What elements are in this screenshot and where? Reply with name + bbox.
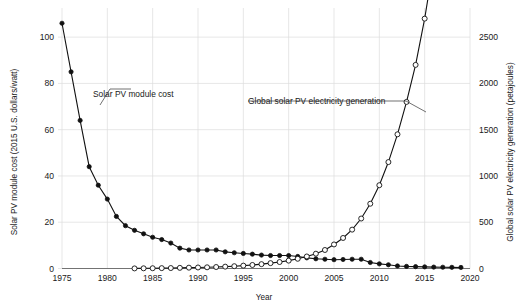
data-point bbox=[314, 257, 318, 261]
data-point bbox=[359, 257, 363, 261]
data-point bbox=[287, 253, 291, 257]
data-point bbox=[241, 251, 245, 255]
left-y-axis-title: Solar PV module cost (2015 U.S. dollars/… bbox=[10, 68, 19, 235]
chart-container: 1975198019851990199520002005201020152020… bbox=[0, 0, 528, 308]
data-point bbox=[259, 253, 263, 257]
vertical-gridlines bbox=[62, 8, 470, 269]
data-point bbox=[368, 260, 372, 264]
left-y-tick-label: 80 bbox=[44, 78, 54, 88]
x-tick-label: 1975 bbox=[52, 273, 71, 283]
data-point bbox=[277, 260, 282, 265]
data-point bbox=[177, 265, 182, 270]
data-point bbox=[395, 264, 399, 268]
data-point bbox=[142, 232, 146, 236]
data-point bbox=[422, 16, 427, 21]
data-point bbox=[60, 21, 64, 25]
horizontal-gridlines bbox=[58, 37, 470, 268]
data-point bbox=[150, 266, 155, 271]
data-point bbox=[332, 258, 336, 262]
data-point bbox=[441, 265, 445, 269]
data-point bbox=[323, 257, 327, 261]
data-point bbox=[450, 265, 454, 269]
right-y-axis-title: Global solar PV electricity generation (… bbox=[506, 62, 515, 242]
data-point bbox=[459, 265, 463, 269]
data-point bbox=[341, 235, 346, 240]
data-point bbox=[187, 248, 191, 252]
data-point bbox=[232, 264, 237, 269]
data-point bbox=[268, 261, 273, 266]
data-point bbox=[386, 263, 390, 267]
left-y-tick-label: 100 bbox=[40, 32, 55, 42]
data-point bbox=[205, 248, 209, 252]
data-point bbox=[232, 251, 236, 255]
x-axis-title: Year bbox=[256, 293, 273, 302]
generation-annotation-label: Global solar PV electricity generation bbox=[248, 96, 386, 106]
generation-series-markers bbox=[132, 0, 463, 271]
data-point bbox=[160, 237, 164, 241]
data-point bbox=[377, 262, 381, 266]
data-point bbox=[295, 256, 300, 261]
data-point bbox=[395, 132, 400, 137]
x-tick-label: 2020 bbox=[460, 273, 479, 283]
x-tick-label: 1985 bbox=[143, 273, 162, 283]
dual-axis-line-chart: 1975198019851990199520002005201020152020… bbox=[0, 0, 528, 308]
x-tick-label: 2015 bbox=[415, 273, 434, 283]
data-point bbox=[304, 254, 309, 259]
left-y-tick-label: 20 bbox=[44, 217, 54, 227]
data-point bbox=[413, 62, 418, 67]
right-y-tick-label: 2500 bbox=[479, 32, 498, 42]
data-point bbox=[313, 251, 318, 256]
right-y-tick-label: 500 bbox=[479, 217, 494, 227]
data-point bbox=[368, 201, 373, 206]
data-point bbox=[123, 224, 127, 228]
left-y-tick-label: 60 bbox=[44, 125, 54, 135]
data-point bbox=[132, 266, 137, 271]
data-point bbox=[132, 228, 136, 232]
data-point bbox=[350, 257, 354, 261]
data-point bbox=[78, 118, 82, 122]
data-point bbox=[423, 265, 427, 269]
data-point bbox=[322, 247, 327, 252]
x-tick-labels: 1975198019851990199520002005201020152020 bbox=[52, 273, 479, 283]
data-point bbox=[178, 246, 182, 250]
data-point bbox=[341, 257, 345, 261]
data-point bbox=[214, 248, 218, 252]
left-y-tick-label: 40 bbox=[44, 171, 54, 181]
data-point bbox=[214, 265, 219, 270]
right-y-tick-label: 0 bbox=[479, 264, 484, 274]
data-point bbox=[168, 266, 173, 271]
data-point bbox=[241, 263, 246, 268]
data-point bbox=[96, 183, 100, 187]
x-tick-label: 1980 bbox=[98, 273, 117, 283]
data-point bbox=[141, 266, 146, 271]
left-y-tick-labels: 020406080100 bbox=[40, 32, 55, 273]
right-y-tick-labels: 05001000150020002500 bbox=[479, 32, 498, 273]
data-point bbox=[186, 265, 191, 270]
x-tick-label: 2000 bbox=[279, 273, 298, 283]
data-point bbox=[196, 265, 201, 270]
generation-series-line bbox=[135, 0, 461, 268]
right-y-tick-label: 1000 bbox=[479, 171, 498, 181]
data-point bbox=[169, 241, 173, 245]
data-point bbox=[432, 265, 436, 269]
data-point bbox=[69, 70, 73, 74]
data-point bbox=[223, 264, 228, 269]
x-tick-label: 2005 bbox=[324, 273, 343, 283]
data-point bbox=[350, 227, 355, 232]
right-y-tick-label: 1500 bbox=[479, 125, 498, 135]
data-point bbox=[414, 265, 418, 269]
data-point bbox=[105, 197, 109, 201]
data-point bbox=[377, 183, 382, 188]
data-point bbox=[268, 253, 272, 257]
data-point bbox=[278, 253, 282, 257]
right-y-tick-label: 2000 bbox=[479, 78, 498, 88]
data-point bbox=[151, 235, 155, 239]
data-point bbox=[259, 262, 264, 267]
data-point bbox=[223, 250, 227, 254]
cost-annotation-label: Solar PV module cost bbox=[93, 89, 174, 99]
data-point bbox=[114, 214, 118, 218]
x-tick-label: 1990 bbox=[188, 273, 207, 283]
x-tick-label: 1995 bbox=[234, 273, 253, 283]
cost-series-line bbox=[62, 23, 461, 267]
data-point bbox=[196, 248, 200, 252]
